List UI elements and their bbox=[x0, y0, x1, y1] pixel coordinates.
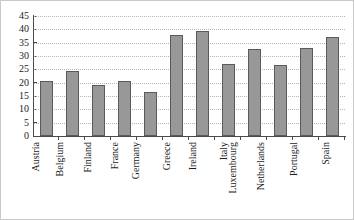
x-axis-tick-cell bbox=[189, 136, 215, 141]
bar-luxembourg[interactable] bbox=[248, 49, 261, 136]
bar-slot bbox=[215, 16, 241, 136]
x-axis-label-portugal: Portugal bbox=[289, 142, 299, 176]
x-axis-tick-cell bbox=[293, 136, 319, 141]
bar-slot bbox=[163, 16, 189, 136]
y-axis-tick-label: 15 bbox=[19, 91, 33, 101]
y-axis-tick-label: 45 bbox=[19, 11, 33, 21]
bars-layer bbox=[33, 16, 345, 136]
bar-slot bbox=[319, 16, 345, 136]
x-axis-label-austria: Austria bbox=[31, 142, 41, 171]
y-axis-tick-label: 0 bbox=[24, 131, 33, 141]
y-axis-tick-label: 10 bbox=[19, 104, 33, 114]
x-axis-label-germany: Germany bbox=[131, 142, 141, 179]
bar-chart-figure: 051015202530354045 AustriaBelgiumFinland… bbox=[0, 0, 354, 220]
x-axis-label-cell: Portugal bbox=[293, 142, 319, 216]
bar-slot bbox=[241, 16, 267, 136]
bar-slot bbox=[267, 16, 293, 136]
x-axis-label-finland: Finland bbox=[83, 142, 93, 173]
x-axis-label-spain: Spain bbox=[321, 142, 331, 165]
x-axis-tick-cell bbox=[111, 136, 137, 141]
x-axis-tick-cell bbox=[137, 136, 163, 141]
y-axis-tick-label: 40 bbox=[19, 24, 33, 34]
x-axis-category-labels: AustriaBelgiumFinlandFranceGermanyGreece… bbox=[33, 142, 345, 216]
bar-belgium[interactable] bbox=[66, 71, 79, 136]
x-axis-tick-cell bbox=[319, 136, 345, 141]
bar-netherlands[interactable] bbox=[274, 65, 287, 136]
bar-ireland[interactable] bbox=[196, 31, 209, 136]
bar-italy[interactable] bbox=[222, 64, 235, 136]
x-axis-tick-marks bbox=[33, 136, 345, 141]
x-axis-label-belgium: Belgium bbox=[55, 142, 65, 176]
y-axis-tick-labels: 051015202530354045 bbox=[1, 16, 33, 136]
bar-finland[interactable] bbox=[92, 85, 105, 136]
bar-greece[interactable] bbox=[170, 35, 183, 136]
bar-germany[interactable] bbox=[144, 92, 157, 136]
bar-france[interactable] bbox=[118, 81, 131, 136]
y-axis-tick-label: 20 bbox=[19, 78, 33, 88]
x-axis-tick-cell bbox=[241, 136, 267, 141]
x-axis-tick-mark bbox=[344, 136, 345, 140]
bar-slot bbox=[111, 16, 137, 136]
x-axis-tick-cell bbox=[163, 136, 189, 141]
x-axis-tick-cell bbox=[33, 136, 59, 141]
x-axis-tick-cell bbox=[85, 136, 111, 141]
bar-austria[interactable] bbox=[40, 81, 53, 136]
bar-slot bbox=[33, 16, 59, 136]
y-axis-tick-label: 25 bbox=[19, 64, 33, 74]
bar-slot bbox=[85, 16, 111, 136]
bar-slot bbox=[189, 16, 215, 136]
y-axis-line bbox=[33, 15, 34, 137]
x-axis-tick-cell bbox=[215, 136, 241, 141]
x-axis-label-france: France bbox=[110, 142, 120, 169]
y-axis-tick-label: 5 bbox=[24, 118, 33, 128]
x-axis-label-cell: Germany bbox=[137, 142, 163, 216]
x-axis-label-netherlands: Netherlands bbox=[256, 142, 266, 190]
x-axis-label-cell: Spain bbox=[319, 142, 345, 216]
bar-portugal[interactable] bbox=[300, 48, 313, 136]
x-axis-label-cell: Finland bbox=[85, 142, 111, 216]
x-axis-label-luxembourg: Luxembourg bbox=[228, 142, 238, 193]
y-axis-tick-label: 30 bbox=[19, 51, 33, 61]
bar-slot bbox=[59, 16, 85, 136]
x-axis-label-cell: Greece bbox=[163, 142, 189, 216]
x-axis-label-greece: Greece bbox=[162, 142, 172, 170]
x-axis-tick-cell bbox=[267, 136, 293, 141]
x-axis-label-ireland: Ireland bbox=[188, 142, 198, 170]
bar-spain[interactable] bbox=[326, 37, 339, 136]
bar-slot bbox=[137, 16, 163, 136]
plot-area bbox=[33, 16, 345, 136]
bar-slot bbox=[293, 16, 319, 136]
x-axis-tick-cell bbox=[59, 136, 85, 141]
y-axis-tick-label: 35 bbox=[19, 38, 33, 48]
x-axis-label-cell: Ireland bbox=[189, 142, 215, 216]
